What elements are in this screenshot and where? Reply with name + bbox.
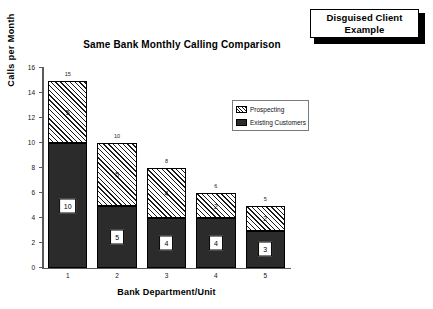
bar-group: 5510 xyxy=(97,143,137,268)
legend-label: Prospecting xyxy=(250,106,284,114)
bar-group: 10515 xyxy=(48,81,88,269)
bar-total-label: 5 xyxy=(264,196,267,202)
y-axis-title: Calls per Month xyxy=(6,0,16,110)
legend-label: Existing Customers xyxy=(250,119,306,127)
bar-total-label: 15 xyxy=(65,71,71,77)
y-tick: 0 xyxy=(0,263,43,273)
bar-segment-label: 5 xyxy=(66,107,70,116)
bar-segment-label: 5 xyxy=(115,170,119,179)
legend-item: Prospecting xyxy=(236,104,305,115)
bar-segment-label: 3 xyxy=(258,242,272,257)
bar-segment-existing-customers: 4 xyxy=(147,218,187,268)
y-tick-label: 8 xyxy=(31,163,35,173)
bar-total-label: 8 xyxy=(165,158,168,164)
legend-swatch-existing-customers-icon xyxy=(236,119,247,127)
y-tick-label: 2 xyxy=(31,238,35,248)
x-tick-label: 1 xyxy=(43,272,92,279)
x-tick-label: 4 xyxy=(191,272,240,279)
bar-segment-prospecting: 4 xyxy=(147,168,187,218)
bar-segment-label: 10 xyxy=(59,198,77,213)
y-tick: 4 xyxy=(0,213,43,223)
chart-legend: ProspectingExisting Customers xyxy=(232,100,309,131)
bar-group: 426 xyxy=(196,193,236,268)
x-tick-label: 3 xyxy=(142,272,191,279)
y-tick: 8 xyxy=(0,163,43,173)
bar-segment-prospecting: 5 xyxy=(48,81,88,144)
bar-total-label: 6 xyxy=(214,183,217,189)
bar-segment-existing-customers: 5 xyxy=(97,206,137,269)
y-tick: 6 xyxy=(0,188,43,198)
bar-group: 448 xyxy=(147,168,187,268)
bar-segment-label: 4 xyxy=(209,236,223,251)
disguised-client-callout: Disguised Client Example xyxy=(310,9,419,38)
bar-segment-prospecting: 5 xyxy=(97,143,137,206)
y-tick: 2 xyxy=(0,238,43,248)
bar-segment-label: 2 xyxy=(214,201,218,210)
x-tick-label: 5 xyxy=(241,272,290,279)
y-tick: 10 xyxy=(0,138,43,148)
bar-segment-label: 4 xyxy=(160,236,174,251)
bar-segment-prospecting: 2 xyxy=(196,193,236,218)
y-tick-label: 14 xyxy=(28,88,35,98)
bar-segment-existing-customers: 4 xyxy=(196,218,236,268)
chart-title: Same Bank Monthly Calling Comparison xyxy=(62,39,302,50)
bar-segment-label: 4 xyxy=(165,189,169,198)
y-tick-label: 10 xyxy=(28,138,35,148)
legend-swatch-prospecting-icon xyxy=(236,106,247,114)
plot-area: 105155510448426325 xyxy=(43,68,290,268)
legend-item: Existing Customers xyxy=(236,117,305,128)
x-axis-title: Bank Department/Unit xyxy=(43,287,290,297)
y-tick-label: 0 xyxy=(31,263,35,273)
y-tick-label: 6 xyxy=(31,188,35,198)
callout-text: Disguised Client Example xyxy=(326,12,402,36)
y-tick-label: 16 xyxy=(28,63,35,73)
bar-group: 325 xyxy=(246,206,286,269)
bar-segment-label: 5 xyxy=(110,229,124,244)
y-tick-label: 12 xyxy=(28,113,35,123)
bar-total-label: 10 xyxy=(114,133,120,139)
bar-segment-existing-customers: 10 xyxy=(48,143,88,268)
bar-segment-label: 2 xyxy=(263,214,267,223)
x-tick-label: 2 xyxy=(92,272,141,279)
bar-segment-existing-customers: 3 xyxy=(246,231,286,269)
y-tick: 12 xyxy=(0,113,43,123)
bar-segment-prospecting: 2 xyxy=(246,206,286,231)
chart-page: Disguised Client Example Same Bank Month… xyxy=(0,0,433,309)
y-tick-label: 4 xyxy=(31,213,35,223)
